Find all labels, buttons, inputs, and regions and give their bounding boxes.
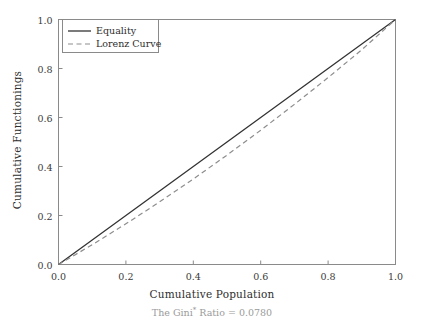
- x-tick-label: 0.8: [321, 271, 336, 282]
- x-axis-title: Cumulative Population: [0, 288, 424, 300]
- lorenz-curve-figure: 0.00.20.40.60.81.0 0.00.20.40.60.81.0 Cu…: [0, 0, 424, 328]
- chart-legend: Equality Lorenz Curve: [62, 19, 159, 53]
- y-axis-title: Cumulative Functionings: [11, 45, 23, 235]
- y-tick-label: 0.4: [25, 161, 53, 172]
- legend-dashed-line-icon: [68, 39, 91, 49]
- x-tick-label: 0.6: [253, 271, 268, 282]
- legend-solid-line-icon: [68, 26, 91, 36]
- legend-item-equality: Equality: [68, 24, 153, 37]
- y-tick-label: 1.0: [25, 14, 53, 25]
- x-tick-label: 1.0: [388, 271, 403, 282]
- legend-label-equality: Equality: [96, 24, 136, 37]
- legend-label-lorenz-curve: Lorenz Curve: [96, 37, 161, 50]
- gini-ratio-subtitle: The Gini* Ratio = 0.0780: [0, 306, 424, 318]
- legend-item-lorenz-curve: Lorenz Curve: [68, 37, 153, 50]
- x-tick-label: 0.4: [186, 271, 201, 282]
- subtitle-prefix: The Gini: [152, 307, 193, 318]
- y-tick-label: 0.0: [25, 259, 53, 270]
- y-tick-label: 0.8: [25, 63, 53, 74]
- subtitle-suffix: Ratio = 0.0780: [196, 307, 272, 318]
- y-tick-label: 0.2: [25, 210, 53, 221]
- y-tick-label: 0.6: [25, 112, 53, 123]
- x-tick-label: 0.2: [118, 271, 133, 282]
- x-tick-label: 0.0: [51, 271, 66, 282]
